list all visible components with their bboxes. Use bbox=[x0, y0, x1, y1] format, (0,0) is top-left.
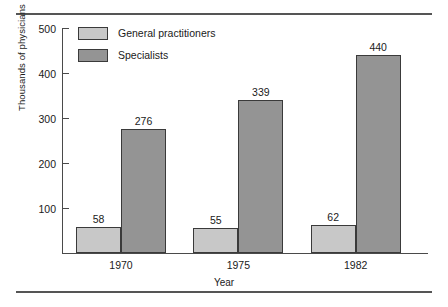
bar: 55 bbox=[193, 228, 238, 253]
y-axis-title: Thousands of physicians bbox=[16, 0, 27, 123]
x-axis-line bbox=[62, 253, 428, 254]
legend-label: General practitioners bbox=[118, 28, 215, 39]
chart-legend: General practitionersSpecialists bbox=[78, 27, 215, 71]
bar: 440 bbox=[356, 55, 401, 253]
bottom-rule bbox=[16, 291, 432, 293]
legend-entry: Specialists bbox=[78, 49, 215, 62]
legend-swatch bbox=[78, 27, 108, 40]
bar: 276 bbox=[121, 129, 166, 253]
y-axis-tick-label: 300 bbox=[24, 113, 56, 125]
bar: 339 bbox=[238, 100, 283, 253]
bar-chart-figure: Thousands of physicians 100200300400500 … bbox=[0, 0, 448, 307]
bar-value-label: 62 bbox=[327, 212, 339, 223]
x-axis-category-label: 1975 bbox=[193, 260, 283, 271]
legend-swatch bbox=[78, 49, 108, 62]
y-axis-tick-label: 500 bbox=[24, 23, 56, 35]
x-axis-category-label: 1982 bbox=[311, 260, 401, 271]
legend-label: Specialists bbox=[118, 50, 168, 61]
y-axis-tick-label: 100 bbox=[24, 203, 56, 215]
bar-value-label: 440 bbox=[369, 42, 387, 53]
bar-value-label: 55 bbox=[210, 215, 222, 226]
bar: 58 bbox=[76, 227, 121, 253]
bar-value-label: 339 bbox=[252, 87, 270, 98]
top-rule bbox=[16, 13, 432, 15]
y-axis-tick-label: 200 bbox=[24, 158, 56, 170]
bar-value-label: 58 bbox=[93, 214, 105, 225]
bar-value-label: 276 bbox=[135, 116, 153, 127]
legend-entry: General practitioners bbox=[78, 27, 215, 40]
x-axis-title: Year bbox=[0, 277, 448, 288]
x-axis-category-label: 1970 bbox=[76, 260, 166, 271]
y-axis-tick-label: 400 bbox=[24, 68, 56, 80]
bar: 62 bbox=[311, 225, 356, 253]
